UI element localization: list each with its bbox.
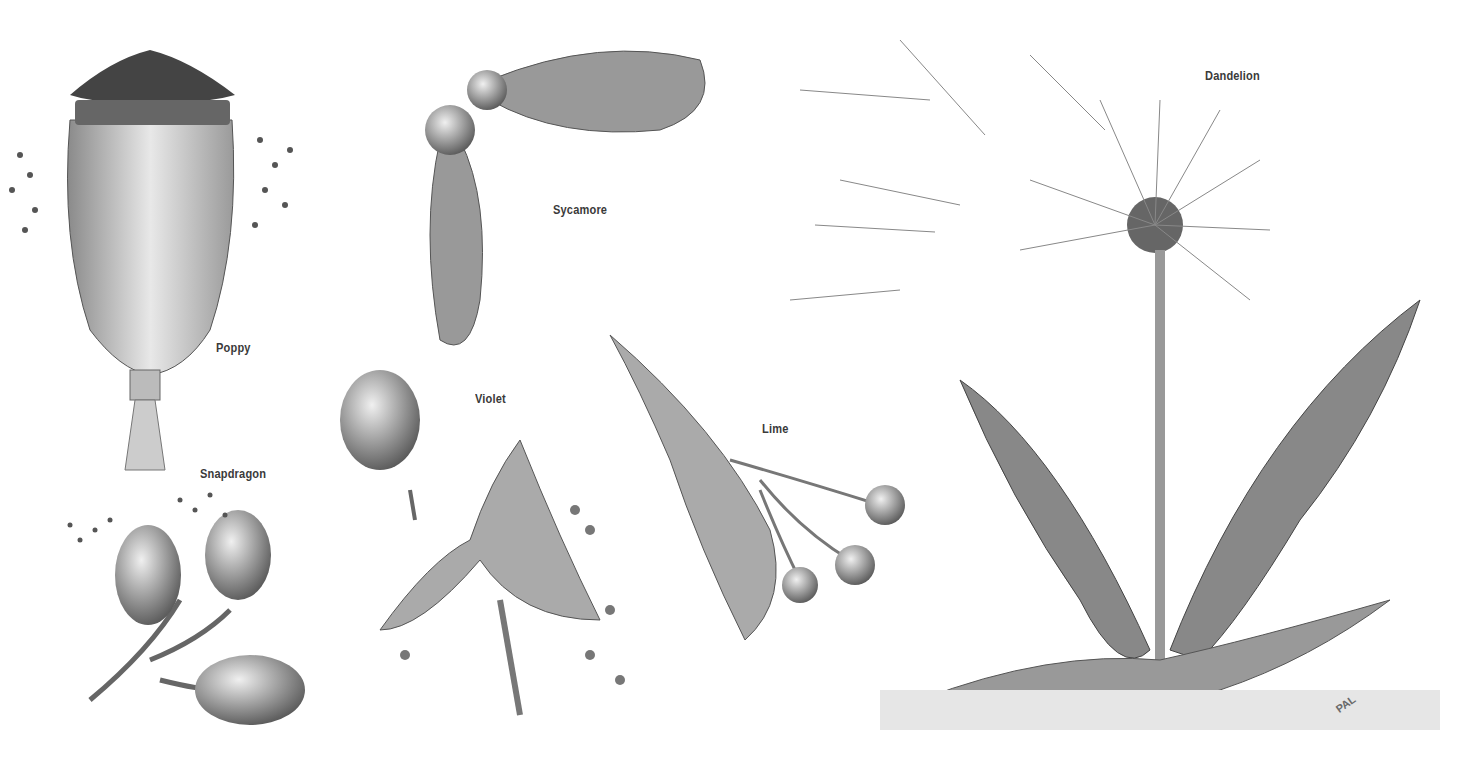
botanical-illustration <box>0 0 1461 758</box>
poppy-drawing <box>9 50 293 470</box>
label-snapdragon: Snapdragon <box>200 466 266 481</box>
violet-drawing <box>340 370 625 715</box>
dandelion-drawing <box>790 40 1440 730</box>
snapdragon-drawing <box>68 493 306 726</box>
lime-drawing <box>610 335 905 640</box>
label-poppy: Poppy <box>216 340 251 355</box>
label-violet: Violet <box>475 391 506 406</box>
label-sycamore: Sycamore <box>553 202 607 217</box>
sycamore-drawing <box>425 51 705 345</box>
label-lime: Lime <box>762 421 788 436</box>
label-dandelion: Dandelion <box>1205 68 1260 83</box>
